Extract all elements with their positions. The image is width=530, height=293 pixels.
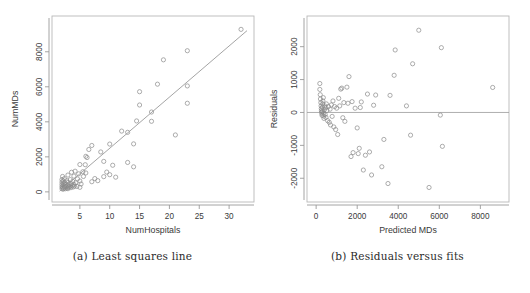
plot-frame-b — [307, 16, 509, 202]
regression-line — [60, 31, 247, 192]
y-axis-b: -2000-1000010002000 — [290, 18, 304, 200]
x-axis-title-a: NumHospitals — [126, 225, 181, 235]
svg-text:-2000: -2000 — [290, 167, 299, 188]
scatter-plot-residuals: -2000-1000010002000 02000400060008000 Re… — [265, 0, 530, 248]
svg-text:4000: 4000 — [35, 112, 44, 131]
svg-text:-1000: -1000 — [290, 134, 299, 155]
data-points-a — [60, 27, 243, 191]
y-ticks-a: 02000400060008000 — [35, 42, 49, 194]
svg-text:8000: 8000 — [471, 212, 490, 221]
svg-text:15: 15 — [135, 212, 145, 221]
x-ticks-b: 02000400060008000 — [314, 205, 490, 221]
svg-text:0: 0 — [290, 110, 299, 115]
svg-text:1000: 1000 — [290, 70, 299, 89]
y-axis-title-a: NumMDs — [10, 90, 20, 127]
svg-text:2000: 2000 — [290, 37, 299, 56]
x-axis-a: 51015202530 — [52, 205, 254, 221]
figure-row: 02000400060008000 51015202530 NumMDs Num… — [0, 0, 530, 293]
svg-text:6000: 6000 — [430, 212, 449, 221]
y-axis-title-b: Residuals — [269, 89, 279, 128]
svg-text:8000: 8000 — [35, 42, 44, 61]
svg-text:0: 0 — [35, 189, 44, 194]
y-axis-a: 02000400060008000 — [35, 18, 49, 200]
svg-text:10: 10 — [105, 212, 115, 221]
svg-text:5: 5 — [78, 212, 83, 221]
x-ticks-a: 51015202530 — [78, 205, 235, 221]
svg-text:0: 0 — [314, 212, 319, 221]
x-axis-title-b: Predicted MDs — [379, 225, 437, 235]
scatter-plot-least-squares: 02000400060008000 51015202530 NumMDs Num… — [0, 0, 265, 248]
svg-text:25: 25 — [195, 212, 205, 221]
panel-residuals-versus-fits: -2000-1000010002000 02000400060008000 Re… — [265, 0, 530, 293]
svg-text:30: 30 — [225, 212, 235, 221]
svg-text:6000: 6000 — [35, 77, 44, 96]
caption-panel-b: (b) Residuals versus fits — [265, 250, 530, 262]
svg-text:2000: 2000 — [35, 147, 44, 166]
data-points-b — [318, 28, 495, 189]
y-ticks-b: -2000-1000010002000 — [290, 37, 304, 189]
x-axis-b: 02000400060008000 — [307, 205, 509, 221]
panel-least-squares-line: 02000400060008000 51015202530 NumMDs Num… — [0, 0, 265, 293]
svg-text:20: 20 — [165, 212, 175, 221]
svg-text:2000: 2000 — [348, 212, 367, 221]
svg-text:4000: 4000 — [389, 212, 408, 221]
caption-panel-a: (a) Least squares line — [0, 250, 265, 262]
